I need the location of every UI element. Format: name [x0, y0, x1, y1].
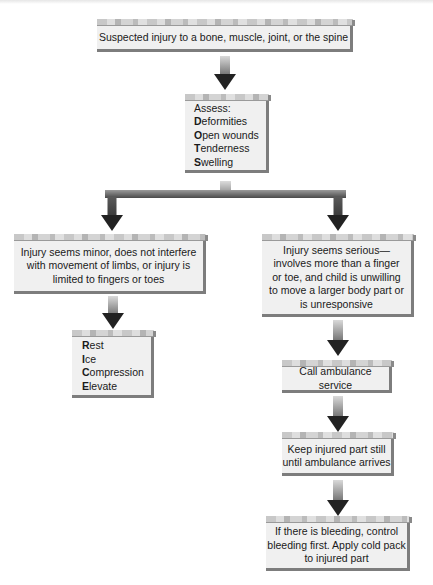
rice-item-compression: Compression	[82, 366, 144, 380]
node-header-stripe	[282, 432, 394, 439]
node-call-ambulance: Call ambulance service	[282, 360, 392, 393]
rice-item-rest: Rest	[82, 339, 144, 353]
assess-item-open-wounds: Open wounds	[194, 129, 259, 143]
assess-heading: Assess:	[194, 102, 259, 116]
node-control-bleeding: If there is bleeding, control bleeding f…	[266, 516, 410, 571]
node-serious-line: to move a larger body part or	[269, 284, 404, 298]
arrow-down-right-branch-icon	[327, 197, 349, 233]
node-suspected-injury-text: Suspected injury to a bone, muscle, join…	[99, 31, 348, 45]
arrow-down-icon	[327, 396, 349, 434]
node-bleeding-line: to injured part	[267, 552, 405, 566]
node-keep-still: Keep injured part still until ambulance …	[282, 432, 394, 476]
arrow-down-icon	[214, 56, 236, 90]
node-call-ambulance-text: Call ambulance service	[282, 365, 389, 392]
node-serious-line: is unresponsive	[269, 298, 404, 312]
arrow-down-left-branch-icon	[101, 197, 123, 233]
node-serious-line: or toe, and child is unwilling	[269, 271, 404, 285]
node-keep-still-line: Keep injured part still	[283, 443, 391, 457]
node-serious-injury: Injury seems serious— involves more than…	[262, 234, 414, 317]
split-connector-bar	[105, 190, 346, 198]
arrow-down-icon	[327, 320, 349, 358]
assess-item-tenderness: Tenderness	[194, 142, 259, 156]
node-rice: Rest Ice Compression Elevate	[72, 330, 154, 398]
node-bleeding-line: If there is bleeding, control	[267, 525, 405, 539]
node-header-stripe	[14, 234, 206, 241]
assess-item-swelling: Swelling	[194, 156, 259, 170]
node-header-stripe	[72, 330, 154, 337]
arrow-down-icon	[102, 296, 124, 330]
node-assess: Assess: Deformities Open wounds Tenderne…	[185, 94, 269, 173]
node-serious-line: Injury seems serious—	[269, 244, 404, 258]
node-minor-injury: Injury seems minor, does not interfere w…	[14, 234, 206, 294]
assess-item-deformities: Deformities	[194, 115, 259, 129]
node-minor-line: Injury seems minor, does not interfere	[21, 246, 197, 260]
node-suspected-injury: Suspected injury to a bone, muscle, join…	[97, 19, 353, 52]
node-header-stripe	[262, 234, 414, 241]
node-bleeding-line: bleeding first. Apply cold pack	[267, 539, 405, 553]
rice-item-elevate: Elevate	[82, 380, 144, 394]
node-keep-still-line: until ambulance arrives	[283, 456, 391, 470]
node-minor-line: limited to fingers or toes	[21, 273, 197, 287]
node-header-stripe	[97, 19, 353, 26]
node-serious-line: involves more than a finger	[269, 257, 404, 271]
arrow-down-icon	[327, 480, 349, 518]
node-minor-line: with movement of limbs, or injury is	[21, 259, 197, 273]
top-rule	[0, 0, 433, 4]
node-header-stripe	[185, 94, 269, 101]
rice-item-ice: Ice	[82, 353, 144, 367]
node-header-stripe	[266, 516, 410, 523]
